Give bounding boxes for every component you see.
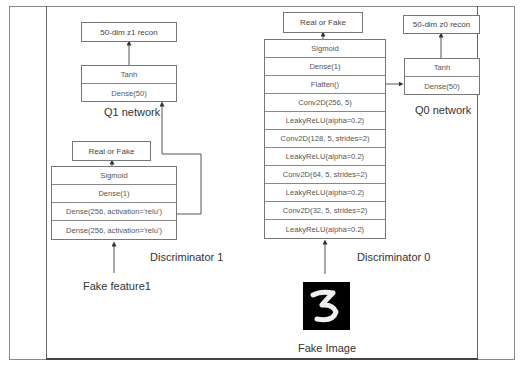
fake-image-mnist-digit bbox=[303, 282, 350, 330]
disc1-layer: Dense(256, activation='relu') bbox=[52, 203, 176, 221]
disc0-layer: Conv2D(128, 5, strides=2) bbox=[265, 130, 385, 148]
discriminator-1-label: Discriminator 1 bbox=[150, 251, 223, 263]
q1-output-box: 50-dim z1 recon bbox=[81, 22, 177, 42]
disc1-layer: Dense(1) bbox=[52, 185, 176, 203]
disc0-layer: Conv2D(32, 5, strides=2) bbox=[265, 202, 385, 220]
q0-output-label: 50-dim z0 recon bbox=[413, 20, 470, 29]
q1-network-stack: Tanh Dense(50) bbox=[81, 65, 177, 102]
digit-three-icon bbox=[303, 282, 350, 330]
disc0-layer: Dense(1) bbox=[265, 58, 385, 76]
fake-image-label: Fake Image bbox=[298, 342, 356, 354]
q1-layer-dense50: Dense(50) bbox=[82, 84, 176, 102]
disc1-output-label: Real or Fake bbox=[89, 147, 135, 156]
disc0-layer: LeakyReLU(alpha=0.2) bbox=[265, 112, 385, 130]
discriminator-0-stack: Sigmoid Dense(1) Flatten() Conv2D(256, 5… bbox=[264, 39, 386, 239]
q0-network-label: Q0 network bbox=[415, 104, 471, 116]
q0-layer-dense50: Dense(50) bbox=[405, 77, 479, 95]
disc0-layer: LeakyReLU(alpha=0.2) bbox=[265, 148, 385, 166]
discriminator-0-label: Discriminator 0 bbox=[357, 251, 430, 263]
q1-layer-tanh: Tanh bbox=[82, 66, 176, 84]
q0-network-stack: Tanh Dense(50) bbox=[404, 58, 480, 95]
disc0-layer: Conv2D(256, 5) bbox=[265, 94, 385, 112]
discriminator-1-stack: Sigmoid Dense(1) Dense(256, activation='… bbox=[51, 166, 177, 240]
disc0-layer: LeakyReLU(alpha=0.2) bbox=[265, 220, 385, 238]
q1-network-label: Q1 network bbox=[104, 106, 160, 118]
disc0-output-box: Real or Fake bbox=[283, 12, 363, 33]
disc1-output-box: Real or Fake bbox=[72, 141, 151, 161]
disc0-layer: Flatten() bbox=[265, 76, 385, 94]
q0-output-box: 50-dim z0 recon bbox=[403, 15, 480, 34]
q1-output-label: 50-dim z1 recon bbox=[100, 28, 157, 37]
q0-layer-tanh: Tanh bbox=[405, 59, 479, 77]
disc1-layer: Sigmoid bbox=[52, 167, 176, 185]
fake-feature1-label: Fake feature1 bbox=[83, 280, 151, 292]
disc0-layer: Conv2D(64, 5, strides=2) bbox=[265, 166, 385, 184]
disc1-layer: Dense(256, activation='relu') bbox=[52, 221, 176, 239]
disc0-layer: Sigmoid bbox=[265, 40, 385, 58]
disc0-layer: LeakyReLU(alpha=0.2) bbox=[265, 184, 385, 202]
disc0-output-label: Real or Fake bbox=[300, 18, 346, 27]
